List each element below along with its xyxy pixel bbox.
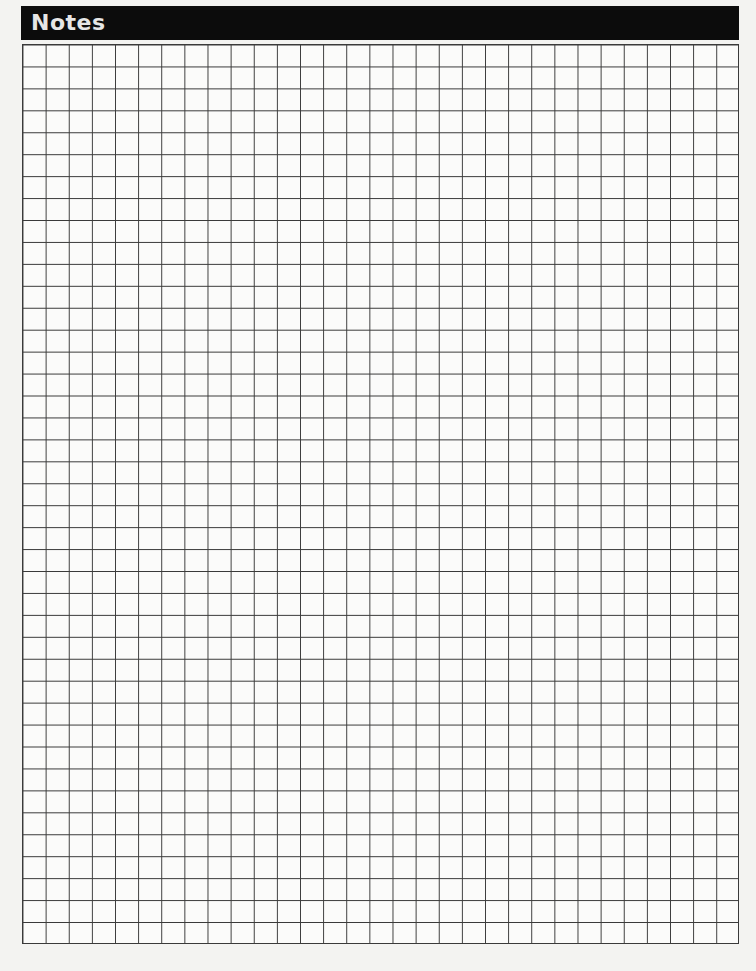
notes-header-bar: Notes [21,6,739,40]
page-title: Notes [31,9,106,37]
graph-paper-grid [22,44,739,944]
